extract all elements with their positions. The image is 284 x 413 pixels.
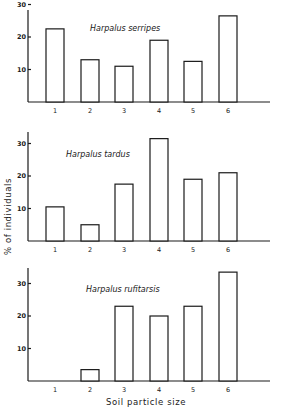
panel-harpalus-tardus: 102030Harpalus tardus123456 <box>17 132 270 254</box>
x-tick-label: 3 <box>122 386 126 394</box>
panel-harpalus-serripes: 102030Harpalus serripes123456 <box>17 1 270 115</box>
bar-category-3 <box>115 184 133 241</box>
bar-category-5 <box>184 306 202 381</box>
bar-category-2 <box>81 225 99 241</box>
x-tick-label: 2 <box>88 246 92 254</box>
y-tick-label: 30 <box>17 140 27 148</box>
bar-category-6 <box>219 272 237 381</box>
bar-category-5 <box>184 61 202 102</box>
x-tick-label: 4 <box>157 107 161 115</box>
x-tick-label: 2 <box>88 107 92 115</box>
bar-category-3 <box>115 66 133 102</box>
bar-category-1 <box>46 207 64 241</box>
bar-category-2 <box>81 370 99 381</box>
bar-category-4 <box>150 139 168 241</box>
x-tick-label: 6 <box>226 246 230 254</box>
bar-category-3 <box>115 306 133 381</box>
x-tick-label: 3 <box>122 246 126 254</box>
panel-title: Harpalus tardus <box>66 150 130 159</box>
bar-category-5 <box>184 179 202 241</box>
x-tick-label: 5 <box>191 246 195 254</box>
bar-category-2 <box>81 60 99 102</box>
x-tick-label: 1 <box>53 107 57 115</box>
bar-category-6 <box>219 16 237 102</box>
bar-category-4 <box>150 40 168 102</box>
bar-chart-figure: 102030Harpalus serripes123456 102030Harp… <box>0 0 284 413</box>
x-tick-label: 2 <box>88 386 92 394</box>
x-tick-label: 4 <box>157 386 161 394</box>
bar-category-4 <box>150 316 168 381</box>
y-axis-label: % of individuals <box>3 178 13 255</box>
y-tick-label: 30 <box>17 280 27 288</box>
panel-harpalus-rufitarsis: 102030Harpalus rufitarsis123456 <box>17 268 270 394</box>
bar-category-1 <box>46 29 64 102</box>
x-tick-label: 4 <box>157 246 161 254</box>
y-tick-label: 20 <box>17 312 27 320</box>
y-tick-label: 30 <box>17 1 27 9</box>
bar-category-6 <box>219 173 237 241</box>
panel-title: Harpalus rufitarsis <box>86 285 160 294</box>
x-axis-label: Soil particle size <box>106 397 186 407</box>
chart-canvas: 102030Harpalus serripes123456 102030Harp… <box>0 0 284 413</box>
x-tick-label: 1 <box>53 246 57 254</box>
y-tick-label: 10 <box>17 205 27 213</box>
x-tick-label: 6 <box>226 386 230 394</box>
x-tick-label: 1 <box>53 386 57 394</box>
panel-title: Harpalus serripes <box>90 24 160 33</box>
x-tick-label: 6 <box>226 107 230 115</box>
y-tick-label: 20 <box>17 172 27 180</box>
y-tick-label: 10 <box>17 66 27 74</box>
y-tick-label: 20 <box>17 33 27 41</box>
x-tick-label: 5 <box>191 107 195 115</box>
y-tick-label: 10 <box>17 345 27 353</box>
x-tick-label: 3 <box>122 107 126 115</box>
x-tick-label: 5 <box>191 386 195 394</box>
